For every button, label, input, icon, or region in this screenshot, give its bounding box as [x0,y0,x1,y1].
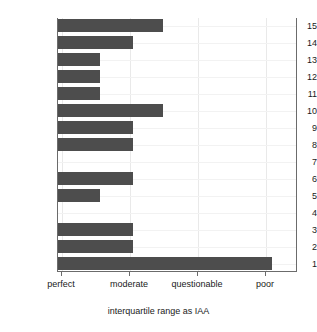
bar-row-1 [58,257,272,270]
plot-area [57,18,297,272]
bar-row-10 [58,104,163,117]
bar-row-13 [58,53,100,66]
bar-chart-figure: 15 14 13 12 11 10 9 8 7 6 5 4 3 2 1 [0,0,317,332]
bar-row-14 [58,36,133,49]
bar-row-9 [58,121,133,134]
x-tick-label-moderate: moderate [110,279,148,289]
gridline-horizontal [58,162,296,163]
bar-row-15 [58,19,163,32]
bar-row-6 [58,172,133,185]
x-tick-label-questionable: questionable [171,279,222,289]
bar-row-12 [58,70,100,83]
bar-row-3 [58,223,133,236]
bar-row-5 [58,189,100,202]
bar-row-2 [58,240,133,253]
x-tick-mark [129,272,130,276]
gridline-horizontal [58,213,296,214]
bar-row-11 [58,87,100,100]
x-tick-label-poor: poor [256,279,274,289]
x-tick-label-perfect: perfect [47,279,75,289]
x-tick-mark [265,272,266,276]
x-tick-mark [197,272,198,276]
x-tick-mark [61,272,62,276]
x-axis-title: interquartile range as IAA [0,306,317,317]
bar-row-8 [58,138,133,151]
